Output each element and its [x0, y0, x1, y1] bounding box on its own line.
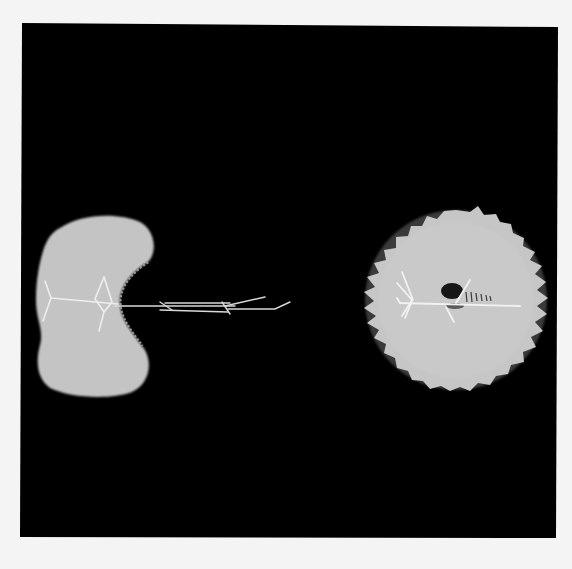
figure-canvas: [0, 0, 572, 569]
